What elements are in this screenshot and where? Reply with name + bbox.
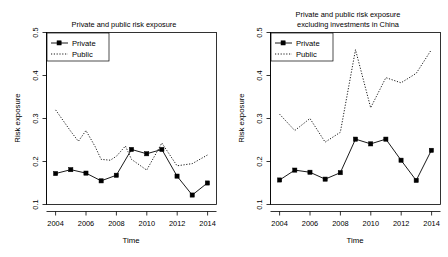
left-series-private-markers — [54, 147, 210, 197]
data-point-marker — [338, 171, 342, 175]
right-ytick-2: 0.3 — [255, 113, 264, 123]
data-point-marker — [160, 147, 164, 151]
right-xtick-0: 2004 — [271, 219, 287, 228]
data-point-marker — [399, 158, 403, 162]
left-legend-label-public: Public — [72, 50, 93, 59]
left-ytick-0: 0.1 — [31, 199, 40, 209]
right-ytick-3: 0.4 — [255, 70, 264, 80]
data-point-marker — [384, 137, 388, 141]
data-point-marker — [429, 148, 433, 152]
left-xtick-1: 2006 — [78, 219, 94, 228]
left-series-public-line — [56, 110, 208, 170]
right-chart-title-line1: Private and public risk exposure — [296, 10, 401, 19]
right-y-axis: 0.1 0.2 0.3 0.4 0.5 Risk exposure — [237, 27, 271, 209]
figure-two-panel-line-charts: Private and public risk exposure 0.1 0.2… — [0, 0, 448, 257]
data-point-marker — [84, 171, 88, 175]
left-y-axis-label: Risk exposure — [13, 93, 22, 142]
right-legend-label-public: Public — [296, 50, 317, 59]
right-series-public-line — [280, 50, 432, 142]
data-point-marker — [323, 177, 327, 181]
right-y-axis-label: Risk exposure — [237, 93, 246, 142]
left-chart-title: Private and public risk exposure — [72, 20, 177, 29]
data-point-marker — [69, 168, 73, 172]
right-x-axis: 2004 2006 2008 2010 2012 2014 Time — [271, 212, 441, 246]
right-chart-svg: Private and public risk exposure excludi… — [224, 0, 448, 257]
data-point-marker — [278, 178, 282, 182]
data-point-marker — [114, 173, 118, 177]
right-x-axis-label: Time — [346, 236, 363, 245]
right-xtick-5: 2014 — [423, 219, 439, 228]
left-xtick-3: 2010 — [139, 219, 155, 228]
left-xtick-4: 2012 — [169, 219, 185, 228]
left-xtick-5: 2014 — [199, 219, 215, 228]
right-chart-title-line2: excluding investments in China — [297, 20, 400, 29]
left-y-axis: 0.1 0.2 0.3 0.4 0.5 Risk exposure — [13, 27, 47, 209]
data-point-marker — [145, 152, 149, 156]
data-point-marker — [414, 178, 418, 182]
data-point-marker — [353, 137, 357, 141]
left-ytick-2: 0.3 — [31, 113, 40, 123]
right-ytick-0: 0.1 — [255, 199, 264, 209]
left-ytick-4: 0.5 — [31, 27, 40, 37]
left-legend: Private Public — [47, 33, 109, 61]
left-series-private-line — [56, 149, 208, 195]
right-legend: Private Public — [271, 33, 333, 61]
right-ytick-1: 0.2 — [255, 156, 264, 166]
left-chart-svg: Private and public risk exposure 0.1 0.2… — [0, 0, 224, 257]
right-xtick-1: 2006 — [302, 219, 318, 228]
left-x-axis-label: Time — [122, 236, 139, 245]
chart-panel-left: Private and public risk exposure 0.1 0.2… — [0, 0, 224, 257]
right-series-private-markers — [278, 137, 434, 182]
left-xtick-2: 2008 — [108, 219, 124, 228]
right-ytick-4: 0.5 — [255, 27, 264, 37]
left-x-axis: 2004 2006 2008 2010 2012 2014 Time — [47, 212, 217, 246]
data-point-marker — [54, 171, 58, 175]
left-ytick-1: 0.2 — [31, 156, 40, 166]
right-xtick-3: 2010 — [363, 219, 379, 228]
data-point-marker — [175, 174, 179, 178]
data-point-marker — [205, 181, 209, 185]
left-ytick-3: 0.4 — [31, 70, 40, 80]
right-legend-label-private: Private — [296, 39, 320, 48]
data-point-marker — [129, 147, 133, 151]
left-xtick-0: 2004 — [47, 219, 63, 228]
chart-panel-right: Private and public risk exposure excludi… — [224, 0, 448, 257]
data-point-marker — [99, 179, 103, 183]
left-legend-label-private: Private — [72, 39, 96, 48]
right-xtick-2: 2008 — [332, 219, 348, 228]
data-point-marker — [369, 142, 373, 146]
right-series-private-line — [280, 139, 432, 180]
right-xtick-4: 2012 — [393, 219, 409, 228]
data-point-marker — [190, 193, 194, 197]
data-point-marker — [293, 168, 297, 172]
data-point-marker — [308, 170, 312, 174]
